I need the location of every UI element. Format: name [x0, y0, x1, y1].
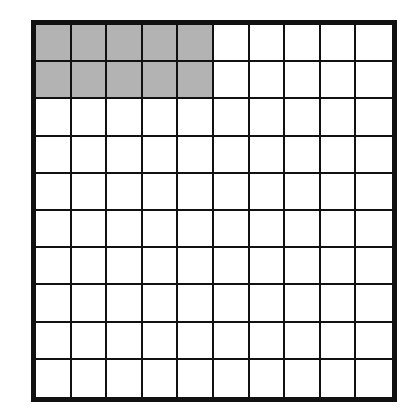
grid-cell [285, 62, 321, 99]
grid-cell [214, 25, 250, 62]
grid-cell [214, 360, 250, 397]
grid-cell [178, 211, 214, 248]
grid-cell [36, 323, 72, 360]
grid-cell-shaded [72, 62, 108, 99]
grid-cell [36, 174, 72, 211]
grid-cell [250, 137, 286, 174]
grid-cell [250, 211, 286, 248]
grid-cell-shaded [107, 62, 143, 99]
grid-cell [107, 211, 143, 248]
hundred-grid [31, 20, 397, 402]
grid-cell [72, 248, 108, 285]
grid-cell-shaded [178, 25, 214, 62]
grid-cell [107, 360, 143, 397]
grid-cell [143, 285, 179, 322]
grid-cell [321, 285, 357, 322]
grid-cell [356, 248, 392, 285]
grid-cell [178, 99, 214, 136]
grid-cell-shaded [36, 62, 72, 99]
grid-cell [285, 25, 321, 62]
grid-cell [36, 285, 72, 322]
grid-cell [72, 211, 108, 248]
grid-cell [214, 285, 250, 322]
grid-cell [178, 323, 214, 360]
grid-cell [107, 323, 143, 360]
grid-cell [214, 99, 250, 136]
grid-cell [356, 174, 392, 211]
grid-cell [178, 360, 214, 397]
grid-cell [285, 285, 321, 322]
grid-cell [214, 174, 250, 211]
grid-cell [250, 174, 286, 211]
grid-cell [356, 360, 392, 397]
grid-cell [214, 137, 250, 174]
grid-cell-shaded [143, 62, 179, 99]
grid-cell [107, 99, 143, 136]
grid-cell [321, 62, 357, 99]
grid-cell [285, 99, 321, 136]
grid-cell [321, 323, 357, 360]
grid-cell [72, 99, 108, 136]
grid-cell-shaded [107, 25, 143, 62]
grid-cell [178, 137, 214, 174]
grid-cell [285, 137, 321, 174]
grid-cell [36, 137, 72, 174]
grid-cell-shaded [178, 62, 214, 99]
grid-cell [356, 323, 392, 360]
grid-cell [285, 248, 321, 285]
grid-cell [250, 25, 286, 62]
grid-cell [178, 248, 214, 285]
grid-cell [143, 360, 179, 397]
grid-cell-shaded [36, 25, 72, 62]
grid-cell [72, 174, 108, 211]
grid-cell [143, 323, 179, 360]
grid-cell [285, 323, 321, 360]
grid-cell [214, 323, 250, 360]
grid-cell [250, 99, 286, 136]
grid-cell [143, 174, 179, 211]
grid-cell [285, 211, 321, 248]
grid-cell [321, 174, 357, 211]
grid-cell [143, 137, 179, 174]
grid-cell [285, 360, 321, 397]
grid-cell [356, 211, 392, 248]
grid-cell [250, 323, 286, 360]
grid-cell [36, 248, 72, 285]
grid-cell [107, 137, 143, 174]
grid-cell-shaded [72, 25, 108, 62]
grid-cell [36, 211, 72, 248]
grid-cell [36, 99, 72, 136]
grid-cell [178, 174, 214, 211]
grid-cell [321, 25, 357, 62]
grid-cell [214, 62, 250, 99]
grid-cell [72, 285, 108, 322]
grid-cell [250, 62, 286, 99]
grid-cell [214, 211, 250, 248]
grid-cell [107, 248, 143, 285]
grid-cell [250, 285, 286, 322]
grid-cell [285, 174, 321, 211]
grid-cell [356, 25, 392, 62]
grid-cell [250, 360, 286, 397]
grid-cell [356, 285, 392, 322]
grid-cell [143, 211, 179, 248]
grid-cell [250, 248, 286, 285]
grid-cell [356, 99, 392, 136]
grid-cell [321, 248, 357, 285]
grid-cell [143, 248, 179, 285]
grid-cell [143, 99, 179, 136]
grid-cell [178, 285, 214, 322]
grid-cell [72, 323, 108, 360]
grid-cell [321, 137, 357, 174]
grid-cell [321, 99, 357, 136]
grid-cell [356, 137, 392, 174]
grid-cell [321, 211, 357, 248]
grid-cell [72, 137, 108, 174]
grid-cell [107, 285, 143, 322]
grid-cell [36, 360, 72, 397]
grid-cell [356, 62, 392, 99]
grid-cell [214, 248, 250, 285]
grid-cell [107, 174, 143, 211]
grid-cell [72, 360, 108, 397]
grid-cell [321, 360, 357, 397]
